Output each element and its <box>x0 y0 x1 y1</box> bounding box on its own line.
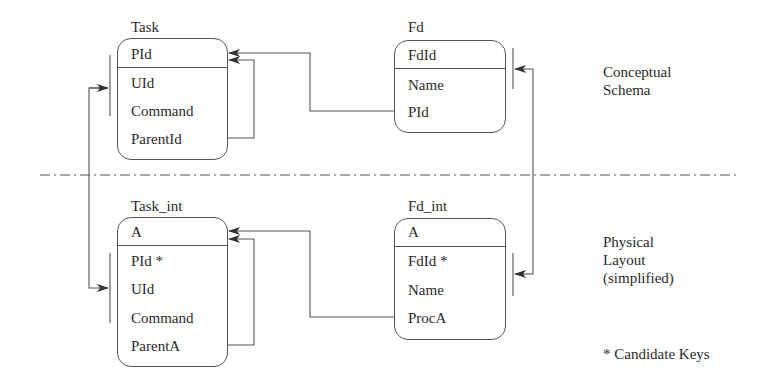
field: UId <box>131 282 154 297</box>
field: Name <box>408 78 444 93</box>
field: Command <box>131 311 194 326</box>
entity-title-fd: Fd <box>408 20 424 35</box>
connector-lines <box>0 0 766 388</box>
entity-fd-int: A FdId * Name ProcA <box>394 218 506 340</box>
field-key: FdId <box>408 48 436 63</box>
taskint-self-loop <box>227 239 254 345</box>
field: ProcA <box>408 311 446 326</box>
entity-title-task: Task <box>131 20 159 35</box>
divider <box>118 67 227 68</box>
fd-to-task-connector <box>310 53 394 111</box>
divider <box>395 68 505 69</box>
divider <box>395 246 505 247</box>
layer-label-physical: Physical Layout (simplified) <box>603 233 674 287</box>
field-key: A <box>131 225 142 240</box>
label-line: (simplified) <box>603 269 674 287</box>
field: FdId * <box>408 254 448 269</box>
entity-task-int: A PId * UId Command ParentA <box>117 217 228 367</box>
field: UId <box>131 76 154 91</box>
entity-task: PId UId Command ParentId <box>117 38 228 160</box>
task-mapping-connector <box>89 88 108 288</box>
entity-title-task-int: Task_int <box>131 199 182 214</box>
field: ParentId <box>131 132 182 147</box>
field: Command <box>131 104 194 119</box>
layer-label-conceptual: Conceptual Schema <box>603 63 671 99</box>
entity-title-fd-int: Fd_int <box>408 199 447 214</box>
label-line: Conceptual <box>603 63 671 81</box>
field-key: PId <box>131 47 152 62</box>
label-line: Layout <box>603 251 674 269</box>
label-line: Physical <box>603 233 674 251</box>
task-self-loop <box>227 60 254 138</box>
field-key: A <box>408 225 419 240</box>
divider <box>118 245 227 246</box>
entity-fd: FdId Name PId <box>394 40 506 133</box>
legend-candidate-keys: * Candidate Keys <box>603 345 710 363</box>
label-line: Schema <box>603 81 671 99</box>
field: PId * <box>131 254 163 269</box>
field: PId <box>408 105 429 120</box>
fd-mapping-connector <box>515 69 533 274</box>
field: Name <box>408 283 444 298</box>
field: ParentA <box>131 339 180 354</box>
